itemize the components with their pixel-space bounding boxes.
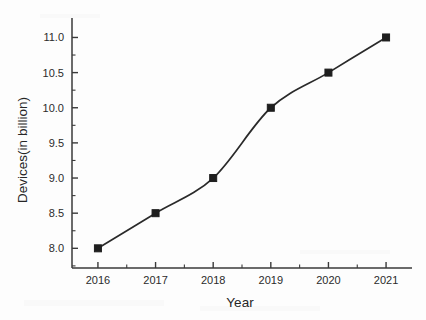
- y-tick-label: 10.5: [43, 67, 64, 79]
- y-tick-label: 10.0: [43, 102, 64, 114]
- y-tick-label: 9.5: [49, 137, 64, 149]
- y-tick-label: 11.0: [43, 31, 64, 43]
- y-axis-title: Devices(in billion): [15, 97, 30, 203]
- y-tick-label: 8.5: [49, 207, 64, 219]
- x-tick-label: 2020: [316, 274, 340, 286]
- data-point-2019: [267, 104, 274, 111]
- y-tick-label: 8.0: [49, 242, 64, 254]
- line-chart: 8.08.59.09.510.010.511.0 201620172018201…: [0, 0, 426, 320]
- data-point-2016: [94, 245, 101, 252]
- chart-container: 8.08.59.09.510.010.511.0 201620172018201…: [0, 0, 426, 320]
- x-tick-label: 2017: [143, 274, 167, 286]
- x-axis-title: Year: [226, 295, 254, 310]
- data-point-2017: [152, 210, 159, 217]
- x-tick-label: 2018: [201, 274, 225, 286]
- x-tick-label: 2016: [86, 274, 110, 286]
- data-point-2021: [383, 34, 390, 41]
- data-point-2018: [210, 175, 217, 182]
- x-tick-label: 2021: [374, 274, 398, 286]
- data-point-2020: [325, 69, 332, 76]
- chart-background: [0, 0, 426, 320]
- x-tick-label: 2019: [259, 274, 283, 286]
- y-tick-label: 9.0: [49, 172, 64, 184]
